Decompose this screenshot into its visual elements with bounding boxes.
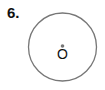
circle-diagram: O <box>0 0 105 90</box>
center-label: O <box>57 46 68 62</box>
